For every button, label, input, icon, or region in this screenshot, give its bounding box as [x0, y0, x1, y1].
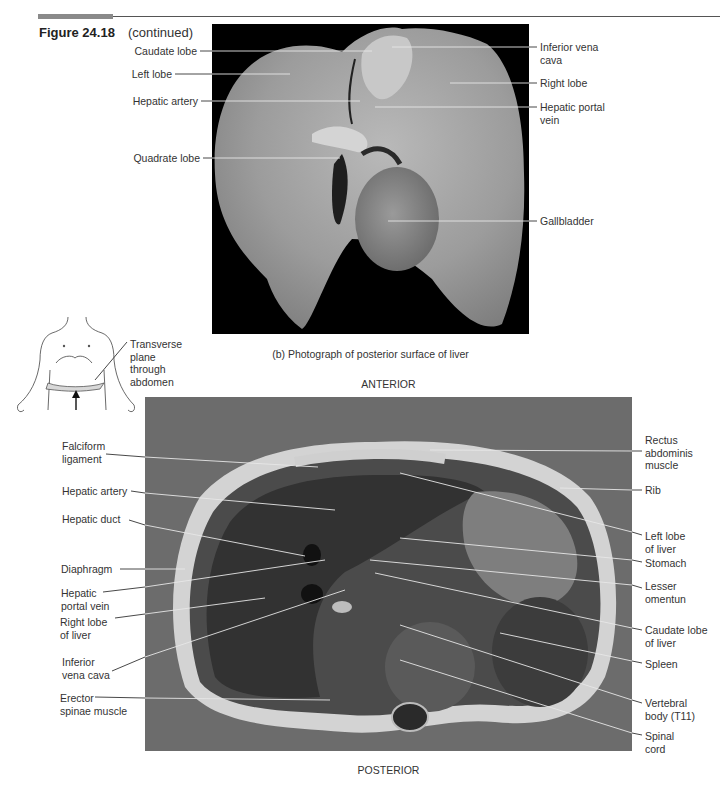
label-right-lobe-of-liver: Right lobe of liver — [60, 616, 107, 641]
label-rectus-abdominis: Rectus abdominis muscle — [645, 434, 693, 472]
label-hepatic-artery-section: Hepatic artery — [62, 485, 127, 498]
label-stomach: Stomach — [645, 557, 686, 570]
label-diaphragm: Diaphragm — [61, 563, 112, 576]
label-spleen: Spleen — [645, 658, 678, 671]
label-caudate-lobe-of-liver: Caudate lobe of liver — [645, 624, 707, 649]
label-spinal-cord: Spinal cord — [645, 730, 674, 755]
label-left-lobe-of-liver: Left lobe of liver — [645, 530, 685, 555]
label-vertebral-body: Vertebral body (T11) — [645, 697, 695, 722]
orientation-posterior: POSTERIOR — [145, 764, 632, 776]
label-lesser-omentum: Lesser omentun — [645, 580, 686, 605]
label-erector-spinae-muscle: Erector spinae muscle — [60, 692, 127, 717]
label-rib: Rib — [645, 484, 661, 497]
orientation-anterior: ANTERIOR — [145, 378, 632, 390]
label-hepatic-duct: Hepatic duct — [62, 513, 120, 526]
label-inferior-vena-cava-section: Inferior vena cava — [62, 656, 110, 681]
label-falciform-ligament: Falciform ligament — [62, 440, 105, 465]
label-hepatic-portal-vein-section: Hepatic portal vein — [61, 587, 109, 612]
